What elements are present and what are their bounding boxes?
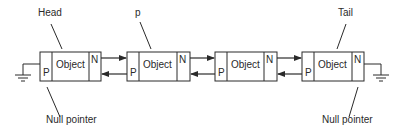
null-pointer-label-left: Null pointer	[46, 114, 97, 126]
null-pointer-label-right: Null pointer	[322, 114, 373, 126]
node-3-next-field: N	[266, 54, 273, 66]
ground-icon-right	[364, 64, 389, 81]
node-2-next-field: N	[179, 54, 186, 66]
node-4-object: Object	[318, 59, 347, 71]
head-label: Head	[38, 7, 62, 19]
node-2-object: Object	[143, 59, 172, 71]
current-pointer-label: p	[135, 7, 141, 19]
node-3-prev-field: P	[218, 67, 225, 79]
node-4-next-field: N	[354, 54, 361, 66]
node-3-object: Object	[231, 59, 260, 71]
node-1-next-field: N	[91, 54, 98, 66]
node-2-prev-field: P	[130, 67, 137, 79]
node-1-object: Object	[56, 59, 85, 71]
node-1-prev-field: P	[43, 67, 50, 79]
ground-icon-left	[15, 64, 40, 81]
tail-label: Tail	[338, 7, 353, 19]
node-4-prev-field: P	[305, 67, 312, 79]
